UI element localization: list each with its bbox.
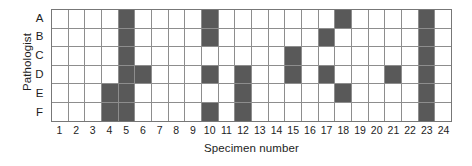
grid-row-e bbox=[52, 84, 451, 103]
grid-cell-d-22 bbox=[402, 66, 419, 84]
grid-cell-c-17 bbox=[319, 47, 336, 65]
grid-cell-d-23 bbox=[419, 66, 436, 84]
grid-cell-b-1 bbox=[52, 29, 69, 47]
grid-cell-b-4 bbox=[102, 29, 119, 47]
grid-cell-c-9 bbox=[185, 47, 202, 65]
grid-cell-f-3 bbox=[85, 103, 102, 122]
grid-cell-b-24 bbox=[435, 29, 451, 47]
x-tick-12: 12 bbox=[235, 123, 252, 138]
grid-cell-b-5 bbox=[119, 29, 136, 47]
grid-cell-a-17 bbox=[319, 10, 336, 28]
grid-cell-d-19 bbox=[352, 66, 369, 84]
grid-cell-d-17 bbox=[319, 66, 336, 84]
grid-cell-b-23 bbox=[419, 29, 436, 47]
grid-cell-c-16 bbox=[302, 47, 319, 65]
grid-cell-c-2 bbox=[69, 47, 86, 65]
grid-cell-d-14 bbox=[269, 66, 286, 84]
grid-cell-d-7 bbox=[152, 66, 169, 84]
grid-cell-a-14 bbox=[269, 10, 286, 28]
grid-cell-b-18 bbox=[335, 29, 352, 47]
x-tick-11: 11 bbox=[218, 123, 235, 138]
grid-row-d bbox=[52, 66, 451, 85]
grid-cell-b-22 bbox=[402, 29, 419, 47]
grid-cell-c-19 bbox=[352, 47, 369, 65]
grid-cell-f-13 bbox=[252, 103, 269, 122]
grid-cell-f-11 bbox=[219, 103, 236, 122]
grid-cell-c-6 bbox=[135, 47, 152, 65]
x-tick-17: 17 bbox=[318, 123, 335, 138]
grid-cell-b-3 bbox=[85, 29, 102, 47]
x-tick-13: 13 bbox=[251, 123, 268, 138]
x-axis-title: Specimen number bbox=[51, 142, 452, 154]
row-label-c: C bbox=[30, 47, 49, 66]
grid-cell-a-5 bbox=[119, 10, 136, 28]
grid-cell-e-20 bbox=[369, 84, 386, 102]
grid-cell-e-18 bbox=[335, 84, 352, 102]
grid-cell-e-4 bbox=[102, 84, 119, 102]
grid-cell-f-7 bbox=[152, 103, 169, 122]
grid-cell-c-11 bbox=[219, 47, 236, 65]
grid-cell-a-3 bbox=[85, 10, 102, 28]
x-tick-20: 20 bbox=[368, 123, 385, 138]
grid-cell-d-5 bbox=[119, 66, 136, 84]
grid-cell-b-10 bbox=[202, 29, 219, 47]
x-tick-16: 16 bbox=[302, 123, 319, 138]
grid-cell-b-17 bbox=[319, 29, 336, 47]
x-tick-6: 6 bbox=[135, 123, 152, 138]
grid-cell-e-19 bbox=[352, 84, 369, 102]
grid-cell-c-10 bbox=[202, 47, 219, 65]
grid-cell-c-3 bbox=[85, 47, 102, 65]
grid-cell-a-10 bbox=[202, 10, 219, 28]
grid-cell-f-8 bbox=[169, 103, 186, 122]
x-tick-4: 4 bbox=[101, 123, 118, 138]
grid-cell-d-11 bbox=[219, 66, 236, 84]
grid-cell-c-1 bbox=[52, 47, 69, 65]
grid-cell-e-5 bbox=[119, 84, 136, 102]
grid-cell-f-20 bbox=[369, 103, 386, 122]
grid-cell-c-12 bbox=[235, 47, 252, 65]
agreement-grid-chart: Pathologist A B C D E F 1234567891011121… bbox=[0, 0, 472, 166]
x-axis-tick-labels: 123456789101112131415161718192021222324 bbox=[51, 123, 452, 138]
grid-cell-b-8 bbox=[169, 29, 186, 47]
grid-cell-b-11 bbox=[219, 29, 236, 47]
grid-row-c bbox=[52, 47, 451, 66]
grid-cell-c-15 bbox=[285, 47, 302, 65]
grid-cell-e-7 bbox=[152, 84, 169, 102]
grid-cell-a-6 bbox=[135, 10, 152, 28]
grid-cell-f-10 bbox=[202, 103, 219, 122]
grid-cell-b-7 bbox=[152, 29, 169, 47]
grid-cell-b-16 bbox=[302, 29, 319, 47]
grid-cell-f-4 bbox=[102, 103, 119, 122]
grid-cell-f-5 bbox=[119, 103, 136, 122]
grid-cell-d-18 bbox=[335, 66, 352, 84]
grid-cell-b-12 bbox=[235, 29, 252, 47]
grid-cell-c-22 bbox=[402, 47, 419, 65]
x-tick-8: 8 bbox=[168, 123, 185, 138]
grid-cell-c-8 bbox=[169, 47, 186, 65]
row-label-d: D bbox=[30, 65, 49, 84]
grid-cell-d-13 bbox=[252, 66, 269, 84]
grid-cell-d-6 bbox=[135, 66, 152, 84]
grid-cell-c-5 bbox=[119, 47, 136, 65]
grid-cell-f-23 bbox=[419, 103, 436, 122]
x-tick-18: 18 bbox=[335, 123, 352, 138]
x-tick-1: 1 bbox=[51, 123, 68, 138]
grid-cell-e-17 bbox=[319, 84, 336, 102]
grid-cell-a-20 bbox=[369, 10, 386, 28]
grid-cell-e-9 bbox=[185, 84, 202, 102]
x-tick-24: 24 bbox=[435, 123, 452, 138]
grid-cell-b-21 bbox=[385, 29, 402, 47]
row-label-a: A bbox=[30, 9, 49, 28]
grid-cell-c-20 bbox=[369, 47, 386, 65]
grid-cell-e-10 bbox=[202, 84, 219, 102]
grid-cell-f-14 bbox=[269, 103, 286, 122]
grid-cell-d-3 bbox=[85, 66, 102, 84]
grid-cell-d-16 bbox=[302, 66, 319, 84]
grid-row-a bbox=[52, 10, 451, 29]
grid-cell-f-17 bbox=[319, 103, 336, 122]
x-tick-15: 15 bbox=[285, 123, 302, 138]
grid-cell-f-24 bbox=[435, 103, 451, 122]
grid-cell-a-19 bbox=[352, 10, 369, 28]
grid-cell-f-15 bbox=[285, 103, 302, 122]
grid-cell-a-11 bbox=[219, 10, 236, 28]
